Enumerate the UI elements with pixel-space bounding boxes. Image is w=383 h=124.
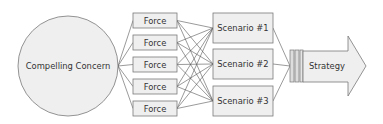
strategy-bars xyxy=(290,50,303,82)
force-label-4: Force xyxy=(133,79,177,94)
scenario-label-2: Scenario #2 xyxy=(213,49,273,79)
strategy-label: Strategy xyxy=(305,58,349,74)
compelling-concern-label: Compelling Concern xyxy=(18,58,118,74)
force-label-3: Force xyxy=(133,57,177,72)
force-label-5: Force xyxy=(133,101,177,116)
force-label-1: Force xyxy=(133,13,177,28)
scenario-label-3: Scenario #3 xyxy=(213,86,273,116)
force-label-2: Force xyxy=(133,35,177,50)
scenario-label-1: Scenario #1 xyxy=(213,13,273,43)
